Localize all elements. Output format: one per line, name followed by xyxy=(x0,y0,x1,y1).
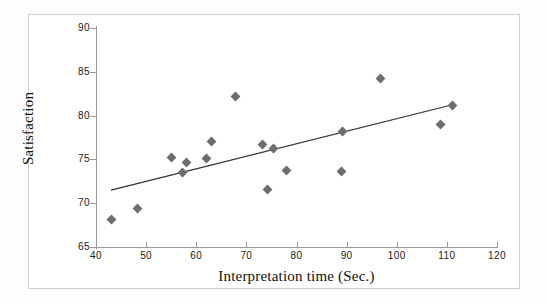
x-tick-label: 50 xyxy=(126,250,166,261)
x-axis-title: Interpretation time (Sec.) xyxy=(96,268,497,285)
y-tick-label-wrap: 75 xyxy=(42,153,90,165)
x-tick-label: 110 xyxy=(427,250,467,261)
x-tick-label: 60 xyxy=(176,250,216,261)
y-tick-label: 85 xyxy=(50,66,90,77)
y-tick-label: 70 xyxy=(50,197,90,208)
y-axis-title: Satisfaction xyxy=(20,59,37,199)
y-tick-mark xyxy=(90,72,96,73)
y-tick-label-wrap: 70 xyxy=(42,197,90,209)
x-tick-label: 40 xyxy=(76,250,116,261)
y-tick-mark xyxy=(90,159,96,160)
x-tick-mark xyxy=(96,242,97,248)
x-tick-mark xyxy=(196,242,197,248)
x-tick-mark xyxy=(297,242,298,248)
y-tick-label-wrap: 80 xyxy=(42,110,90,122)
y-tick-mark xyxy=(90,28,96,29)
y-tick-mark xyxy=(90,116,96,117)
x-tick-label: 80 xyxy=(277,250,317,261)
y-tick-mark xyxy=(90,203,96,204)
x-tick-mark xyxy=(397,242,398,248)
y-tick-label-wrap: 90 xyxy=(42,22,90,34)
y-tick-label-wrap: 85 xyxy=(42,66,90,78)
x-tick-label: 90 xyxy=(327,250,367,261)
x-tick-mark xyxy=(146,242,147,248)
y-tick-label: 75 xyxy=(50,153,90,164)
y-tick-label: 90 xyxy=(50,22,90,33)
x-tick-mark xyxy=(246,242,247,248)
x-tick-label: 100 xyxy=(377,250,417,261)
x-tick-label: 120 xyxy=(477,250,517,261)
chart-figure: 657075808590 405060708090100110120 Satis… xyxy=(0,0,548,303)
x-tick-label: 70 xyxy=(226,250,266,261)
y-axis-line xyxy=(96,26,97,249)
x-tick-mark xyxy=(497,242,498,248)
x-tick-mark xyxy=(447,242,448,248)
y-tick-label: 80 xyxy=(50,110,90,121)
x-tick-mark xyxy=(347,242,348,248)
